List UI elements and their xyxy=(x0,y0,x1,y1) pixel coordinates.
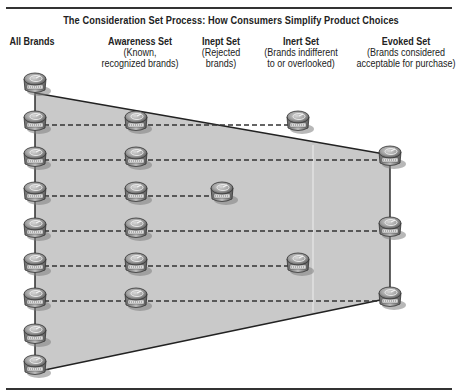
product-can-icon xyxy=(379,217,406,240)
product-can-icon xyxy=(379,287,406,310)
consideration-set-diagram xyxy=(0,0,462,391)
funnel-shape xyxy=(35,93,390,372)
product-can-icon xyxy=(379,146,406,169)
product-can-icon xyxy=(24,73,51,96)
product-can-icon xyxy=(287,111,314,134)
bottom-rule xyxy=(6,388,452,390)
